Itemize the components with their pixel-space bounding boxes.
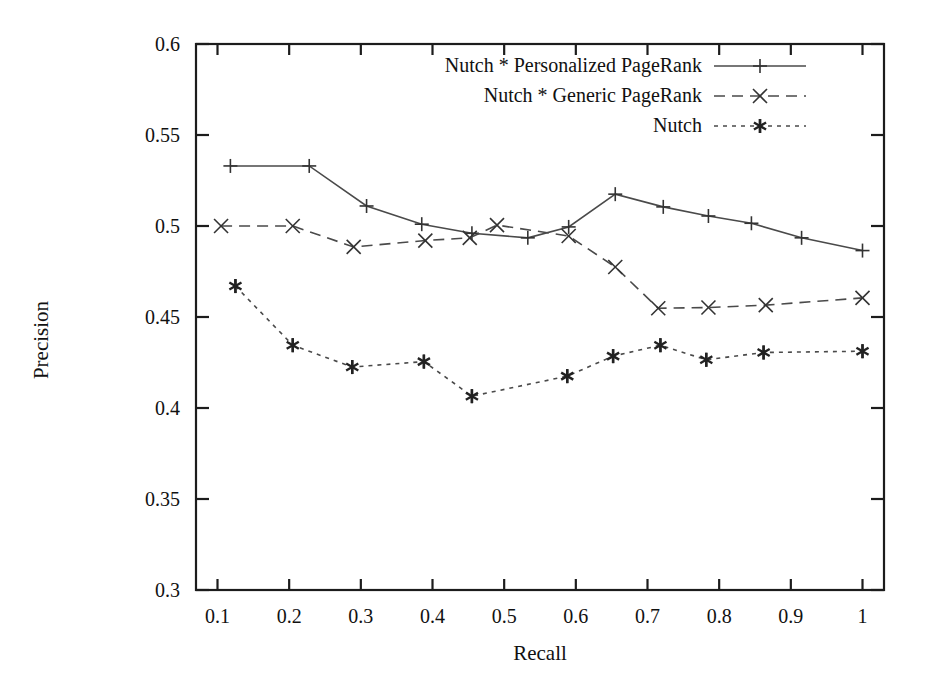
x-axis-ticks: 0.10.20.30.40.50.60.70.80.91 — [205, 44, 868, 627]
data-point-marker — [753, 59, 767, 73]
series-cross — [214, 218, 869, 315]
series-star — [229, 279, 868, 403]
y-tick-label: 0.5 — [155, 215, 180, 237]
y-axis-ticks: 0.30.350.40.450.50.550.6 — [145, 33, 884, 601]
data-point-marker — [415, 217, 429, 231]
x-tick-label: 0.7 — [635, 605, 660, 627]
data-point-marker — [229, 279, 241, 293]
data-point-marker — [223, 159, 237, 173]
data-point-marker — [856, 244, 870, 258]
data-point-marker — [490, 218, 504, 232]
data-point-marker — [607, 349, 619, 363]
data-point-marker — [286, 219, 300, 233]
x-tick-label: 0.4 — [420, 605, 445, 627]
data-point-marker — [795, 231, 809, 245]
y-tick-label: 0.4 — [155, 397, 180, 419]
data-point-marker — [608, 187, 622, 201]
y-axis-title: Precision — [29, 300, 53, 379]
series-plus — [223, 159, 869, 258]
data-point-marker — [521, 231, 535, 245]
data-point-marker — [466, 389, 478, 403]
data-point-marker — [346, 360, 358, 374]
data-point-marker — [654, 338, 666, 352]
data-point-marker — [656, 200, 670, 214]
y-tick-label: 0.6 — [155, 33, 180, 55]
x-tick-label: 0.5 — [492, 605, 517, 627]
series-line — [230, 166, 862, 251]
data-point-marker — [418, 355, 430, 369]
chart-canvas: 0.10.20.30.40.50.60.70.80.91 0.30.350.40… — [0, 0, 929, 698]
x-tick-label: 1 — [858, 605, 868, 627]
data-point-marker — [561, 369, 573, 383]
data-point-marker — [360, 199, 374, 213]
data-point-marker — [744, 216, 758, 230]
data-series-group — [214, 159, 869, 403]
x-tick-label: 0.1 — [205, 605, 230, 627]
y-tick-label: 0.35 — [145, 488, 180, 510]
data-point-marker — [302, 159, 316, 173]
x-tick-label: 0.6 — [563, 605, 588, 627]
x-tick-label: 0.8 — [707, 605, 732, 627]
y-tick-label: 0.55 — [145, 124, 180, 146]
data-point-marker — [465, 226, 479, 240]
data-point-marker — [701, 209, 715, 223]
precision-recall-chart: 0.10.20.30.40.50.60.70.80.91 0.30.350.40… — [0, 0, 929, 698]
legend-label: Nutch — [653, 114, 702, 136]
data-point-marker — [754, 119, 766, 133]
x-tick-label: 0.3 — [348, 605, 373, 627]
data-point-marker — [856, 344, 868, 358]
data-point-marker — [758, 345, 770, 359]
y-tick-label: 0.45 — [145, 306, 180, 328]
data-point-marker — [347, 240, 361, 254]
y-tick-label: 0.3 — [155, 579, 180, 601]
series-line — [221, 225, 862, 308]
x-tick-label: 0.2 — [277, 605, 302, 627]
chart-legend: Nutch * Personalized PageRankNutch * Gen… — [445, 54, 806, 136]
x-axis-title: Recall — [513, 641, 567, 665]
legend-label: Nutch * Personalized PageRank — [445, 54, 702, 77]
x-tick-label: 0.9 — [778, 605, 803, 627]
data-point-marker — [608, 260, 622, 274]
legend-label: Nutch * Generic PageRank — [484, 84, 702, 107]
